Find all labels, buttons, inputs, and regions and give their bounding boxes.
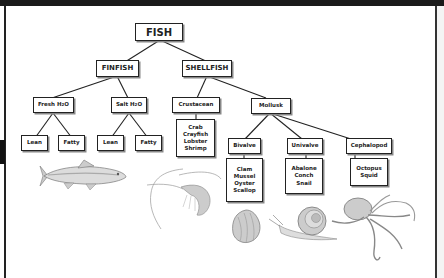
label-text: Salt H (116, 101, 135, 108)
label-text: Fresh H (38, 101, 62, 108)
node-cephalopod: Cephalopod (346, 138, 392, 154)
example-lobster: Lobster (184, 138, 208, 145)
node-fresh-fatty: Fatty (58, 135, 85, 151)
node-salt-water: Salt H2O (111, 97, 147, 113)
example-oyster: Oyster (234, 180, 255, 187)
example-octopus: Octopus (356, 165, 381, 172)
example-crab: Crab (188, 124, 202, 131)
example-crayfish: Crayfish (183, 131, 208, 138)
octopus-illustration (330, 193, 420, 265)
label-suffix: O (137, 101, 142, 108)
node-salt-lean: Lean (97, 135, 124, 151)
example-squid: Squid (360, 172, 378, 179)
node-salt-fatty: Fatty (135, 135, 162, 151)
example-clam: Clam (237, 166, 252, 173)
node-univalve: Univalve (287, 138, 323, 154)
shrimp-illustration (143, 165, 223, 233)
node-univalve-examples: Abalone Conch Snail (285, 158, 323, 194)
example-shrimp: Shrimp (184, 145, 206, 152)
node-shellfish: SHELLFISH (182, 60, 232, 77)
node-fish: FISH (135, 23, 183, 41)
example-mussel: Mussel (234, 173, 256, 180)
node-finfish: FINFISH (96, 60, 139, 77)
example-abalone: Abalone (291, 165, 316, 172)
node-fresh-lean: Lean (21, 135, 48, 151)
node-cephalopod-examples: Octopus Squid (350, 158, 388, 186)
node-crustacean: Crustacean (172, 97, 220, 113)
shell-illustration (228, 207, 264, 247)
node-bivalve: Bivalve (228, 138, 261, 154)
label-suffix: O (64, 101, 69, 108)
fish-illustration (34, 158, 128, 194)
node-crustacean-examples: Crab Crayfish Lobster Shrimp (176, 119, 215, 157)
node-mollusk: Mollusk (251, 98, 291, 114)
node-bivalve-examples: Clam Mussel Oyster Scallop (226, 158, 263, 202)
node-fresh-water: Fresh H2O (33, 97, 74, 113)
example-scallop: Scallop (233, 187, 255, 194)
example-snail: Snail (296, 180, 311, 187)
example-conch: Conch (295, 172, 314, 179)
